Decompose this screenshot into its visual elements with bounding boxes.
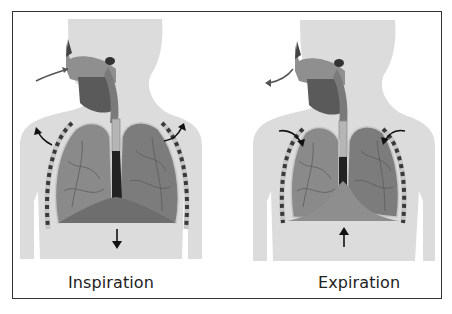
- ear: [334, 59, 344, 67]
- expiration-label: Expiration: [318, 273, 400, 292]
- expiration-illustration: [227, 11, 442, 299]
- trachea: [339, 121, 347, 157]
- airflow-in-arrow: [36, 69, 68, 81]
- inspiration-illustration: [12, 11, 227, 299]
- trachea: [112, 119, 120, 153]
- ear: [105, 57, 115, 65]
- panel-expiration: Expiration: [227, 11, 442, 299]
- airflow-out-arrow: [269, 69, 293, 83]
- panel-inspiration: Inspiration: [12, 11, 227, 299]
- inspiration-label: Inspiration: [68, 273, 154, 292]
